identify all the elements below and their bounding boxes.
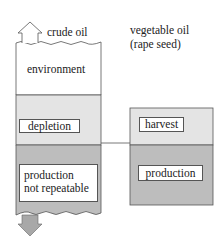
production-label: production xyxy=(24,169,97,182)
crude-oil-label: crude oil xyxy=(47,26,88,39)
not-repeatable-label: not repeatable xyxy=(24,182,97,195)
depletion-label: depletion xyxy=(28,120,71,132)
harvest-label: harvest xyxy=(145,118,178,130)
down-arrow-icon xyxy=(18,215,42,236)
harvest-box: harvest xyxy=(139,117,184,132)
depletion-box: depletion xyxy=(19,119,80,133)
vegetable-oil-label: vegetable oil xyxy=(130,24,189,37)
rape-seed-label: (rape seed) xyxy=(130,38,181,51)
up-arrow-icon xyxy=(18,22,42,43)
right-production-label: production xyxy=(146,167,196,179)
production-box: production not repeatable xyxy=(19,164,98,202)
environment-label: environment xyxy=(27,63,85,76)
right-production-box: production xyxy=(138,165,203,181)
